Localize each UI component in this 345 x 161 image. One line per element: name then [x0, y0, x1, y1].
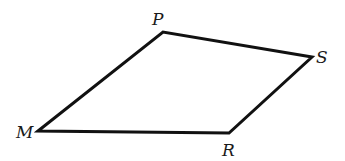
- vertex-label-p: P: [151, 9, 164, 29]
- quadrilateral-diagram: P S R M: [0, 0, 345, 161]
- vertex-label-m: M: [15, 122, 34, 142]
- vertex-label-s: S: [316, 47, 328, 67]
- vertex-label-r: R: [221, 140, 235, 160]
- quadrilateral-mpsr: [38, 32, 312, 133]
